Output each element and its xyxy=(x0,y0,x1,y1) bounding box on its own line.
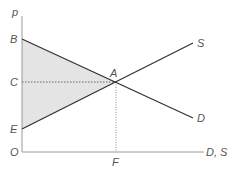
point-e-label: E xyxy=(10,123,18,135)
point-f-label: F xyxy=(112,156,120,168)
x-axis-label: D, S xyxy=(206,146,228,158)
point-b-label: B xyxy=(10,33,17,45)
shaded-surplus-region xyxy=(22,39,116,129)
y-axis-label: p xyxy=(11,6,18,18)
supply-demand-diagram: p D, S O B C E A F S D xyxy=(0,0,235,173)
supply-curve-label: S xyxy=(197,37,205,49)
point-c-label: C xyxy=(10,76,18,88)
point-a-label: A xyxy=(109,67,117,79)
origin-label: O xyxy=(10,146,19,158)
demand-curve-label: D xyxy=(197,112,205,124)
